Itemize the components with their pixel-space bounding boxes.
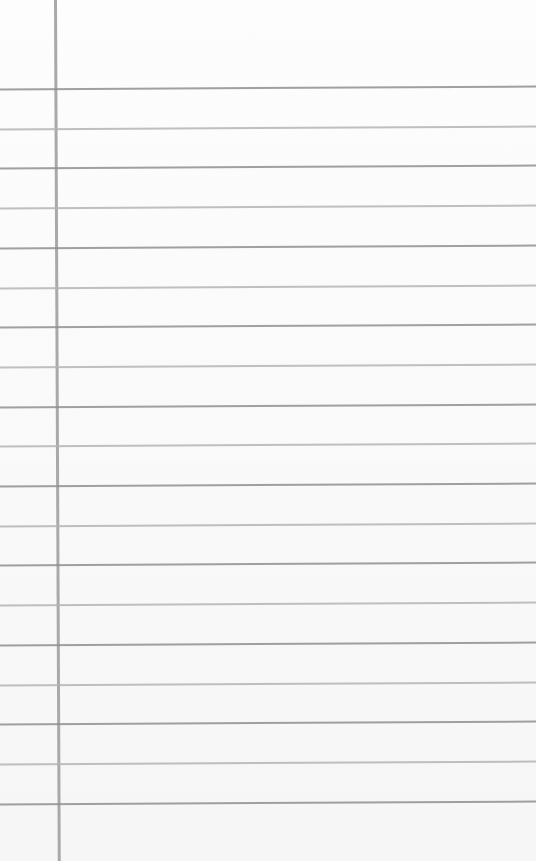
ruled-line	[0, 800, 536, 804]
ruled-line	[0, 165, 536, 169]
ruled-line	[0, 244, 536, 248]
ruled-line	[0, 562, 536, 566]
ruled-line	[0, 363, 536, 367]
ruled-line	[0, 602, 536, 606]
ruled-line	[0, 522, 536, 526]
ruled-line	[0, 324, 536, 328]
ruled-line	[0, 641, 536, 645]
ruled-line	[0, 284, 536, 288]
ruled-line	[0, 681, 536, 685]
ruled-line	[0, 760, 536, 764]
ruled-line	[0, 86, 536, 90]
ruled-line	[0, 443, 536, 447]
ruled-line	[0, 403, 536, 407]
lined-paper	[0, 0, 536, 861]
ruled-line	[0, 483, 536, 487]
ruled-line	[0, 721, 536, 725]
ruled-line	[0, 205, 536, 209]
ruled-line	[0, 125, 536, 129]
